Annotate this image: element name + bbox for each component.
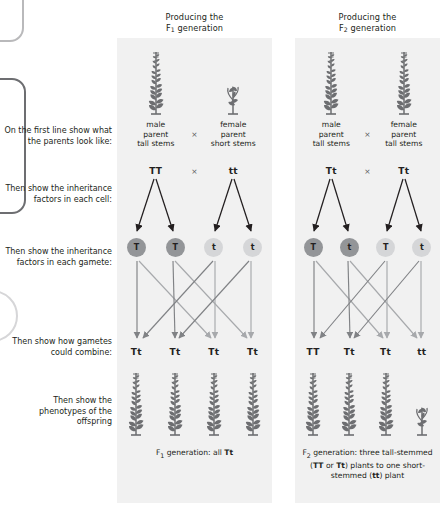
parent-plant-male-f1 <box>117 44 195 116</box>
panel-header-f1-line2: generation <box>178 23 224 33</box>
offspring-genotype-3-f2: Tt <box>368 347 404 357</box>
gamete-cell-1-f1: T <box>117 238 156 257</box>
panel-header-f2-subscript: 2 <box>344 26 348 33</box>
cross-symbol-genotype-f1: × <box>190 167 200 176</box>
parent-sex-male-f2: male <box>322 120 341 129</box>
panel-header-f1-line1: Producing the <box>166 12 224 22</box>
offspring-plant-2-f2 <box>331 365 367 437</box>
offspring-plant-2-f1 <box>156 365 195 437</box>
parent-plant-row-f1 <box>117 44 272 116</box>
gamete-row-f2: T t T t <box>295 238 440 257</box>
panel-caption-f2: F2 generation: three tall-stemmed (TT or… <box>299 448 436 481</box>
short-pea-plant-icon <box>220 48 246 116</box>
page-edge-artifact-top <box>0 0 24 42</box>
offspring-plant-1-f2 <box>295 365 331 437</box>
parent-trait-male-f1: tall stems <box>137 139 174 148</box>
gamete-circle-4-f2: t <box>412 238 431 257</box>
parent-trait-female-f1: short stems <box>211 139 256 148</box>
parent-label-male-f2: male parent tall stems <box>295 120 368 149</box>
offspring-genotype-1-f1: Tt <box>117 347 156 357</box>
panel-header-f1-subscript: 1 <box>171 26 175 33</box>
tall-pea-plant-icon <box>373 369 399 437</box>
gamete-cell-1-f2: T <box>295 238 331 257</box>
parent-genotype-female-f2: Tt <box>368 166 440 176</box>
parent-plant-row-f2 <box>295 44 440 116</box>
offspring-genotype-4-f2: tt <box>404 347 440 357</box>
offspring-genotype-row-f2: TT Tt Tt tt <box>295 347 440 357</box>
offspring-plant-3-f1 <box>195 365 234 437</box>
offspring-genotype-2-f2: Tt <box>331 347 367 357</box>
instruction-gametes: Then show the inheritance factors in eac… <box>4 247 112 268</box>
parent-label-male-f1: male parent tall stems <box>117 120 195 149</box>
offspring-genotype-2-f1: Tt <box>156 347 195 357</box>
parent-sex-female-f1: female <box>220 120 246 129</box>
tall-pea-plant-icon <box>201 369 227 437</box>
gamete-cell-3-f2: T <box>368 238 404 257</box>
cross-symbol-parents-f1: × <box>190 130 200 139</box>
offspring-genotype-3-f1: Tt <box>195 347 234 357</box>
gamete-cell-4-f2: t <box>404 238 440 257</box>
gamete-cell-2-f2: t <box>331 238 367 257</box>
parent-genotype-male-f2: Tt <box>295 166 368 176</box>
parent-plant-male-f2 <box>295 44 368 116</box>
tall-pea-plant-icon <box>240 369 266 437</box>
cross-symbol-genotype-f2: × <box>363 167 373 176</box>
offspring-plant-row-f1 <box>117 365 272 437</box>
parent-genotype-male-f1: TT <box>117 166 195 176</box>
offspring-plant-4-f2 <box>404 365 440 437</box>
gamete-circle-1-f1: T <box>127 238 146 257</box>
offspring-plant-4-f1 <box>233 365 272 437</box>
offspring-plant-row-f2 <box>295 365 440 437</box>
gamete-circle-2-f1: T <box>166 238 185 257</box>
instruction-phenotype: Then show the phenotypes of the offsprin… <box>4 396 112 428</box>
gamete-cell-3-f1: t <box>195 238 234 257</box>
panel-header-f2-line1: Producing the <box>339 12 397 22</box>
parent-plant-female-f1 <box>195 44 273 116</box>
parent-genotype-female-f1: tt <box>195 166 273 176</box>
cross-symbol-parents-f2: × <box>363 130 373 139</box>
instruction-parents: On the first line show what the parents … <box>4 126 112 147</box>
gamete-circle-4-f1: t <box>243 238 262 257</box>
gamete-circle-2-f2: t <box>340 238 359 257</box>
instruction-combine: Then show how gametes could combine: <box>4 337 112 358</box>
offspring-genotype-1-f2: TT <box>295 347 331 357</box>
parent-label-female-f1: female parent short stems <box>195 120 273 149</box>
parent-sex-male-f1: male <box>146 120 165 129</box>
tall-pea-plant-icon <box>143 48 169 116</box>
gamete-circle-3-f2: T <box>376 238 395 257</box>
panel-caption-f1: F1 generation: all Tt <box>121 448 268 461</box>
tall-pea-plant-icon <box>162 369 188 437</box>
instruction-factors: Then show the inheritance factors in eac… <box>4 184 112 205</box>
parent-word-female-f2: parent <box>391 130 416 139</box>
gamete-circle-1-f2: T <box>304 238 323 257</box>
tall-pea-plant-icon <box>300 369 326 437</box>
parent-label-female-f2: female parent tall stems <box>368 120 440 149</box>
tall-pea-plant-icon <box>391 48 417 116</box>
tall-pea-plant-icon <box>318 48 344 116</box>
parent-word-male-f2: parent <box>319 130 344 139</box>
offspring-genotype-row-f1: Tt Tt Tt Tt <box>117 347 272 357</box>
gamete-circle-3-f1: t <box>204 238 223 257</box>
parent-word-female-f1: parent <box>221 130 246 139</box>
tall-pea-plant-icon <box>123 369 149 437</box>
cross-panel-f2: male parent tall stems female parent tal… <box>295 38 440 503</box>
offspring-plant-1-f1 <box>117 365 156 437</box>
offspring-genotype-4-f1: Tt <box>233 347 272 357</box>
panel-header-f1: Producing the F1 generation <box>117 12 272 35</box>
offspring-plant-3-f2 <box>368 365 404 437</box>
parent-word-male-f1: parent <box>143 130 168 139</box>
parent-plant-female-f2 <box>368 44 440 116</box>
short-pea-plant-icon <box>409 369 435 437</box>
gamete-cell-2-f1: T <box>156 238 195 257</box>
gamete-cell-4-f1: t <box>233 238 272 257</box>
page-edge-artifact-bottom <box>0 290 18 342</box>
cross-panel-f1: male parent tall stems female parent sho… <box>117 38 272 503</box>
parent-sex-female-f2: female <box>391 120 417 129</box>
tall-pea-plant-icon <box>336 369 362 437</box>
gamete-row-f1: T T t t <box>117 238 272 257</box>
panel-header-f2: Producing the F2 generation <box>295 12 440 35</box>
panel-header-f2-line2: generation <box>351 23 397 33</box>
parent-trait-female-f2: tall stems <box>385 139 422 148</box>
parent-trait-male-f2: tall stems <box>313 139 350 148</box>
